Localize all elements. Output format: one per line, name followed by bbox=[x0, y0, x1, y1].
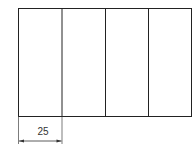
arrow-right-icon bbox=[57, 140, 62, 143]
dimension-label: 25 bbox=[33, 126, 53, 137]
arrow-left-icon bbox=[19, 140, 24, 143]
diagram-canvas bbox=[0, 0, 196, 153]
